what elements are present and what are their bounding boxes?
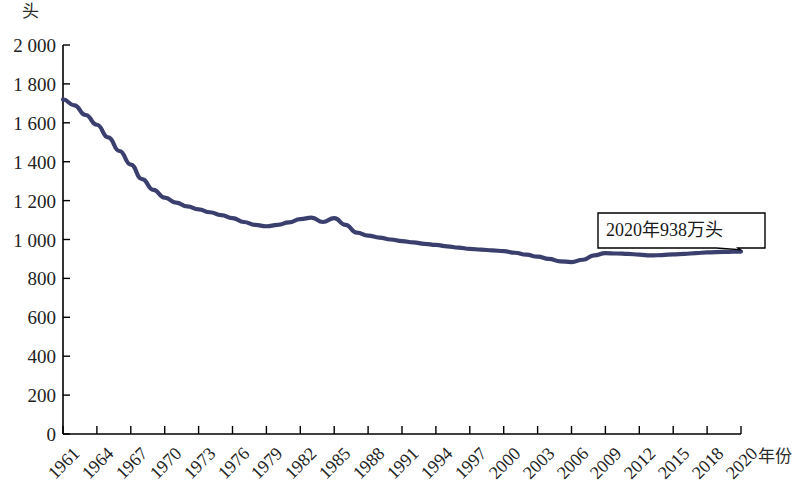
- plot-area: [0, 0, 807, 484]
- x-axis-ticks: [63, 426, 741, 434]
- line-chart: 头 年份 2 0001 8001 6001 4001 2001 00080060…: [0, 0, 807, 484]
- annotation-callout-label: 2020年938万头: [606, 220, 723, 240]
